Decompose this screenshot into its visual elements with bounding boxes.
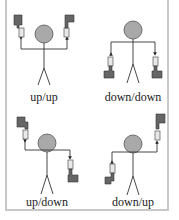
flag-icon [17,117,28,129]
label-up-up: up/up [4,91,84,103]
handle-icon [23,130,28,139]
head-icon [124,135,142,153]
label-up-down: up/down [7,196,87,208]
flag-icon [68,169,78,182]
flag-icon [14,15,22,28]
label-down-up: down/up [93,196,173,208]
diagram-canvas [0,0,179,220]
handle-icon [64,28,69,37]
head-icon [35,25,53,43]
handle-icon [153,57,158,66]
handle-icon [110,164,115,173]
flag-icon [104,66,114,78]
flag-icon [152,66,162,78]
handle-icon [108,57,113,66]
handle-icon [68,160,73,169]
head-icon [38,134,56,152]
flag-icon [156,114,165,129]
flag-icon [65,15,74,28]
flag-icon [105,173,114,184]
figure-up-down [17,117,78,194]
figure-down-down [104,21,162,83]
handle-icon [19,28,24,37]
handle-icon [155,131,160,140]
label-down-down: down/down [93,91,173,103]
figure-up-up [14,15,74,85]
figure-down-up [105,114,165,195]
head-icon [124,21,142,39]
